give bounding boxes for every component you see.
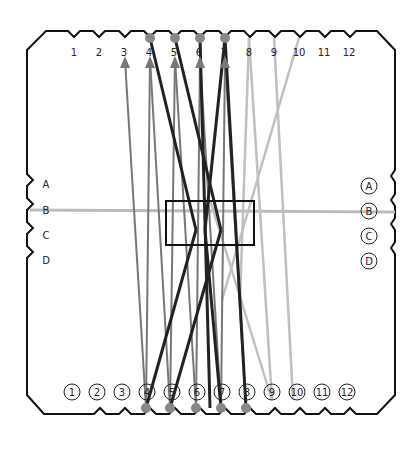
svg-text:4: 4	[146, 47, 152, 58]
pegs-top	[145, 33, 230, 43]
svg-text:D: D	[42, 255, 50, 266]
left-labels: A B C D	[42, 179, 50, 266]
svg-text:10: 10	[291, 387, 304, 398]
svg-text:12: 12	[343, 47, 356, 58]
svg-text:9: 9	[269, 387, 275, 398]
svg-text:B: B	[366, 206, 373, 217]
top-labels: 1 2 3 4 5 6 7 8 9 10 11 12	[71, 47, 356, 58]
svg-text:4: 4	[144, 387, 150, 398]
svg-text:C: C	[43, 230, 50, 241]
board-diagram: 1 2 3 4 5 6 7 8 9 10 11 12 1 2 3 4 5 6 7…	[0, 0, 418, 452]
svg-text:A: A	[366, 181, 373, 192]
svg-text:3: 3	[119, 387, 125, 398]
svg-text:1: 1	[69, 387, 75, 398]
board-outline	[27, 31, 395, 414]
svg-text:3: 3	[121, 47, 127, 58]
svg-text:12: 12	[341, 387, 354, 398]
svg-text:5: 5	[169, 387, 175, 398]
svg-text:10: 10	[293, 47, 306, 58]
svg-text:5: 5	[171, 47, 177, 58]
svg-text:2: 2	[96, 47, 102, 58]
svg-text:B: B	[43, 205, 50, 216]
svg-text:A: A	[43, 179, 50, 190]
svg-text:9: 9	[271, 47, 277, 58]
svg-text:D: D	[365, 256, 373, 267]
svg-text:6: 6	[194, 387, 200, 398]
svg-text:6: 6	[196, 47, 202, 58]
pegs-bottom	[141, 403, 251, 413]
svg-text:7: 7	[219, 387, 225, 398]
svg-text:7: 7	[221, 47, 227, 58]
svg-text:8: 8	[244, 387, 250, 398]
svg-text:11: 11	[316, 387, 329, 398]
svg-text:11: 11	[318, 47, 331, 58]
svg-text:2: 2	[94, 387, 100, 398]
svg-text:1: 1	[71, 47, 77, 58]
svg-text:C: C	[366, 231, 373, 242]
svg-text:8: 8	[246, 47, 252, 58]
